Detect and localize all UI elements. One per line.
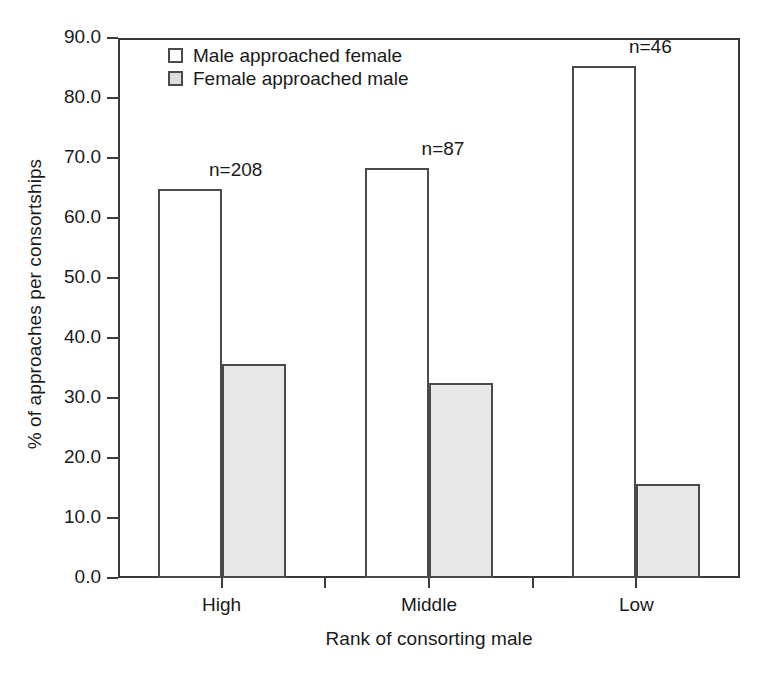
y-tick-line xyxy=(107,217,118,219)
y-tick-line xyxy=(107,397,118,399)
y-tick-label: 10.0 xyxy=(64,506,101,528)
bar xyxy=(636,484,700,578)
legend: Male approached femaleFemale approached … xyxy=(168,44,408,90)
bar xyxy=(429,383,493,578)
bar xyxy=(222,364,286,578)
y-tick-line xyxy=(107,457,118,459)
y-tick-line xyxy=(107,157,118,159)
sample-size-label: n=46 xyxy=(565,36,735,58)
y-tick-line xyxy=(107,337,118,339)
legend-swatch-icon xyxy=(168,71,183,86)
x-tick-line xyxy=(428,578,430,588)
y-tick-label: 0.0 xyxy=(75,566,101,588)
y-tick-label: 90.0 xyxy=(64,26,101,48)
y-tick-line xyxy=(107,517,118,519)
legend-label: Male approached female xyxy=(193,46,402,65)
x-tick-label: Low xyxy=(546,594,726,616)
y-tick-line xyxy=(107,37,118,39)
sample-size-label: n=87 xyxy=(358,138,528,160)
y-tick-line xyxy=(107,97,118,99)
y-tick-label: 20.0 xyxy=(64,446,101,468)
legend-item: Female approached male xyxy=(168,67,408,90)
legend-swatch-icon xyxy=(168,48,183,63)
y-tick-label: 70.0 xyxy=(64,146,101,168)
y-tick-label: 60.0 xyxy=(64,206,101,228)
bar xyxy=(158,189,222,578)
legend-item: Male approached female xyxy=(168,44,408,67)
y-tick-label: 80.0 xyxy=(64,86,101,108)
x-tick-line xyxy=(532,578,534,588)
y-tick-label: 40.0 xyxy=(64,326,101,348)
y-tick-line xyxy=(107,577,118,579)
bar xyxy=(365,168,429,578)
x-tick-label: High xyxy=(132,594,312,616)
bar-chart-figure: % of approaches per consortships 0.010.0… xyxy=(0,0,772,676)
y-tick-line xyxy=(107,277,118,279)
y-tick-label: 30.0 xyxy=(64,386,101,408)
x-tick-label: Middle xyxy=(339,594,519,616)
y-tick-label: 50.0 xyxy=(64,266,101,288)
sample-size-label: n=208 xyxy=(151,159,321,181)
x-tick-line xyxy=(221,578,223,588)
y-axis-title: % of approaches per consortships xyxy=(24,104,46,504)
x-tick-line xyxy=(635,578,637,588)
x-axis-title: Rank of consorting male xyxy=(118,628,740,650)
x-tick-line xyxy=(324,578,326,588)
legend-label: Female approached male xyxy=(193,69,408,88)
bar xyxy=(572,66,636,578)
